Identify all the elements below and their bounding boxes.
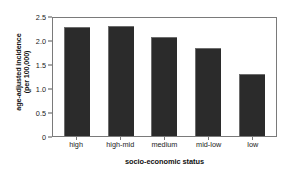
x-axis-title: socio-economic status xyxy=(52,157,277,166)
bar-high-mid[interactable] xyxy=(108,26,134,136)
x-axis-tick-label: high-mid xyxy=(98,140,142,154)
bar-chart-figure: age-adjusted incidence (per 100,000) 00.… xyxy=(0,0,289,180)
x-axis-tick-label: low xyxy=(231,140,275,154)
bars-layer xyxy=(53,18,276,136)
y-axis-tick-label: 2.0 xyxy=(29,37,46,46)
bar-high[interactable] xyxy=(64,27,90,136)
y-axis-tick-label: 2.5 xyxy=(29,13,46,22)
y-axis-tick-label: 1.5 xyxy=(29,61,46,70)
bar-medium[interactable] xyxy=(151,37,177,136)
y-axis-tick-labels: 00.51.01.52.02.5 xyxy=(29,0,46,180)
bar-slot xyxy=(143,18,187,136)
bar-slot xyxy=(186,18,230,136)
bar-slot xyxy=(99,18,143,136)
y-axis-tick-label: 0 xyxy=(29,133,46,142)
bar-slot xyxy=(230,18,274,136)
x-axis-tick-label: mid-low xyxy=(187,140,231,154)
bar-mid-low[interactable] xyxy=(195,48,221,136)
plot-area xyxy=(52,17,277,137)
y-axis-tick-label: 0.5 xyxy=(29,109,46,118)
bar-low[interactable] xyxy=(239,74,265,136)
y-axis-tick-label: 1.0 xyxy=(29,85,46,94)
x-axis-tick-label: high xyxy=(54,140,98,154)
x-axis-tick-label: medium xyxy=(142,140,186,154)
x-axis-tick-labels: highhigh-midmediummid-lowlow xyxy=(52,140,277,154)
y-axis-title-line-1: age-adjusted incidence xyxy=(15,33,23,110)
bar-slot xyxy=(55,18,99,136)
